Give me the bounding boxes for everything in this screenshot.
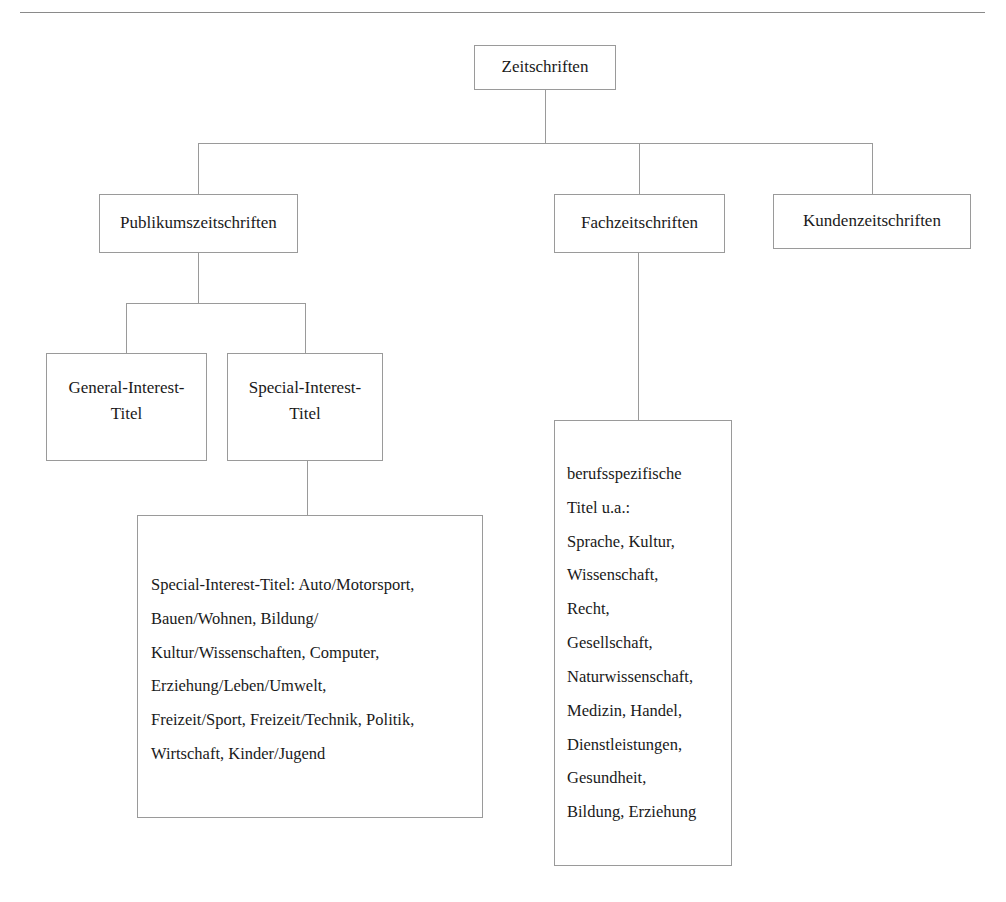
- node-fachzeitschriften-label: Fachzeitschriften: [555, 210, 724, 236]
- detail-line: Wissenschaft,: [567, 558, 731, 592]
- connector-fach-to-detail: [638, 253, 639, 420]
- connector-publikum-down: [198, 253, 199, 303]
- detail-line: Erziehung/Leben/Umwelt,: [151, 669, 482, 703]
- detail-line: Bildung, Erziehung: [567, 795, 731, 829]
- top-divider-rule: [20, 12, 985, 13]
- detail-line: Gesundheit,: [567, 761, 731, 795]
- connector-bus-to-general-interest: [126, 303, 127, 353]
- node-special-interest-titel[interactable]: Special-Interest- Titel: [227, 353, 383, 461]
- detail-line: Recht,: [567, 592, 731, 626]
- detail-line: Special-Interest-Titel: Auto/Motorsport,: [151, 568, 482, 602]
- detail-line: Titel u.a.:: [567, 491, 731, 525]
- node-special-interest-detail[interactable]: Special-Interest-Titel: Auto/Motorsport,…: [137, 515, 483, 818]
- node-fachzeitschriften[interactable]: Fachzeitschriften: [554, 194, 725, 253]
- detail-line: berufsspezifische: [567, 457, 731, 491]
- node-general-interest-titel[interactable]: General-Interest- Titel: [46, 353, 207, 461]
- detail-line: Kultur/Wissenschaften, Computer,: [151, 636, 482, 670]
- detail-line: Wirtschaft, Kinder/Jugend: [151, 737, 482, 771]
- node-publikumszeitschriften[interactable]: Publikumszeitschriften: [99, 194, 298, 253]
- detail-line: Naturwissenschaft,: [567, 660, 731, 694]
- diagram-canvas: Zeitschriften Publikumszeitschriften Fac…: [0, 0, 1006, 902]
- node-fach-detail[interactable]: berufsspezifische Titel u.a.: Sprache, K…: [554, 420, 732, 866]
- connector-bus-to-fach: [639, 143, 640, 194]
- node-zeitschriften[interactable]: Zeitschriften: [474, 45, 616, 90]
- detail-line: Freizeit/Sport, Freizeit/Technik, Politi…: [151, 703, 482, 737]
- detail-line: Sprache, Kultur,: [567, 525, 731, 559]
- connector-bus-to-publikum: [198, 143, 199, 194]
- node-publikumszeitschriften-label: Publikumszeitschriften: [100, 210, 297, 236]
- node-kundenzeitschriften[interactable]: Kundenzeitschriften: [773, 194, 971, 249]
- connector-level2-bus: [126, 303, 305, 304]
- node-general-interest-titel-line2: Titel: [47, 401, 206, 427]
- node-special-interest-titel-line1: Special-Interest-: [228, 375, 382, 401]
- detail-line: Bauen/Wohnen, Bildung/: [151, 602, 482, 636]
- node-zeitschriften-label: Zeitschriften: [475, 54, 615, 80]
- node-general-interest-titel-line1: General-Interest-: [47, 375, 206, 401]
- connector-bus-to-kunden: [872, 143, 873, 194]
- connector-root-down: [545, 90, 546, 143]
- connector-level1-bus: [198, 143, 872, 144]
- detail-line: Gesellschaft,: [567, 626, 731, 660]
- detail-line: Medizin, Handel,: [567, 694, 731, 728]
- connector-special-interest-to-detail: [307, 461, 308, 515]
- node-special-interest-titel-line2: Titel: [228, 401, 382, 427]
- detail-line: Dienstleistungen,: [567, 728, 731, 762]
- connector-bus-to-special-interest: [305, 303, 306, 353]
- node-kundenzeitschriften-label: Kundenzeitschriften: [774, 208, 970, 234]
